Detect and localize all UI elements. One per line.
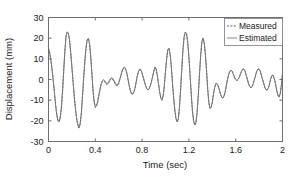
x-tick-label: 2 [280, 145, 285, 155]
y-axis-title: Displacement (mm) [3, 38, 14, 120]
y-tick-label: -10 [30, 95, 43, 105]
x-axis-title: Time (sec) [143, 159, 188, 170]
y-tick-label: -30 [30, 137, 43, 147]
y-tick-label: 0 [38, 75, 43, 85]
displacement-time-plot: -30-20-100102030 00.40.81.21.62 Time (se… [0, 0, 299, 178]
chart-figure: -30-20-100102030 00.40.81.21.62 Time (se… [0, 0, 299, 178]
y-tick-label: 10 [33, 54, 43, 64]
series-line-estimated [49, 32, 283, 127]
y-tick-label: 20 [33, 33, 43, 43]
x-tick-label: 0.4 [89, 145, 102, 155]
chart-legend: Measured Estimated [225, 19, 283, 46]
x-tick-label: 0.8 [136, 145, 149, 155]
x-tick-label: 1.2 [183, 145, 196, 155]
y-tick-label: -20 [30, 116, 43, 126]
x-tick-label: 1.6 [229, 145, 242, 155]
legend-label-estimated: Estimated [239, 33, 277, 43]
legend-label-measured: Measured [239, 21, 277, 31]
y-tick-label: 30 [33, 13, 43, 23]
x-tick-label: 0 [46, 145, 51, 155]
